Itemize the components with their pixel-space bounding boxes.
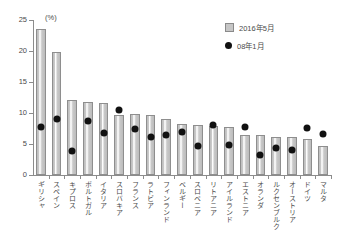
data-point-marker: [37, 123, 44, 130]
x-axis-tick-mark: [64, 175, 65, 179]
bar: [52, 52, 62, 175]
data-point-marker: [84, 118, 91, 125]
y-axis-tick-label: 20: [11, 46, 27, 55]
bar-slot: [177, 20, 187, 175]
x-axis-tick-label: スペイン: [53, 181, 61, 209]
data-point-marker: [273, 144, 280, 151]
x-axis-tick-mark: [190, 175, 191, 179]
x-axis-line: [33, 175, 331, 176]
bar-slot: [161, 20, 171, 175]
bar: [287, 137, 297, 175]
data-point-marker: [226, 141, 233, 148]
y-axis-tick-label: 10: [11, 108, 27, 117]
x-axis-tick-label: ベルギー: [178, 181, 186, 209]
bar-slot: [271, 20, 281, 175]
x-axis-tick-mark: [221, 175, 222, 179]
data-point-marker: [163, 131, 170, 138]
data-point-marker: [304, 124, 311, 131]
x-axis-tick-mark: [253, 175, 254, 179]
x-axis-tick-label: ポルトガル: [84, 181, 92, 216]
y-axis-tick-label: 15: [11, 77, 27, 86]
bar-slot: [146, 20, 156, 175]
x-axis-labels: ギリシャスペインキプロスポルトガルイタリアスロバキアフランスラトビアフィンランド…: [33, 181, 331, 239]
x-axis-tick-mark: [80, 175, 81, 179]
bar: [114, 115, 124, 175]
x-axis-tick-mark: [331, 175, 332, 179]
bar-chart: (%) 2016年5月 08年1月 0510152025 ギリシャスペインキプロ…: [0, 0, 343, 241]
bar-slot: [52, 20, 62, 175]
bar-series-group: [33, 20, 331, 175]
x-axis-tick-label: フィンランド: [163, 181, 171, 223]
x-axis-tick-label: ドイツ: [304, 181, 312, 202]
bar: [209, 126, 219, 175]
x-axis-tick-mark: [284, 175, 285, 179]
data-point-marker: [116, 106, 123, 113]
bar-slot: [209, 20, 219, 175]
data-point-marker: [131, 126, 138, 133]
data-point-marker: [210, 122, 217, 129]
bar-slot: [256, 20, 266, 175]
bar-slot: [67, 20, 77, 175]
x-axis-tick-mark: [268, 175, 269, 179]
bar: [271, 137, 281, 175]
data-point-marker: [147, 133, 154, 140]
bar: [161, 119, 171, 175]
x-axis-tick-label: アイルランド: [225, 181, 233, 223]
x-axis-tick-mark: [300, 175, 301, 179]
bar: [99, 103, 109, 175]
data-point-marker: [53, 116, 60, 123]
x-axis-tick-label: スロバキア: [115, 181, 123, 216]
bar-slot: [114, 20, 124, 175]
data-point-marker: [194, 143, 201, 150]
bar: [193, 125, 203, 175]
bar-slot: [193, 20, 203, 175]
y-axis-tick-label: 25: [11, 15, 27, 24]
x-axis-tick-mark: [111, 175, 112, 179]
x-axis-tick-mark: [315, 175, 316, 179]
bar-slot: [130, 20, 140, 175]
bar: [83, 102, 93, 175]
x-axis-tick-label: オランダ: [257, 181, 265, 209]
bar-slot: [287, 20, 297, 175]
x-axis-tick-label: フランス: [131, 181, 139, 209]
bar-slot: [224, 20, 234, 175]
data-point-marker: [320, 131, 327, 138]
x-axis-tick-label: スロベニア: [194, 181, 202, 216]
y-axis-tick-label: 0: [11, 170, 27, 179]
bar-slot: [99, 20, 109, 175]
bar: [130, 114, 140, 175]
bar-slot: [318, 20, 328, 175]
x-axis-tick-mark: [96, 175, 97, 179]
bar: [318, 146, 328, 175]
bar: [240, 135, 250, 175]
y-axis-tick-label: 5: [11, 139, 27, 148]
bar: [224, 127, 234, 175]
x-axis-tick-label: ギリシャ: [37, 181, 45, 209]
data-point-marker: [257, 151, 264, 158]
bar-slot: [240, 20, 250, 175]
x-axis-tick-label: リトアニア: [210, 181, 218, 216]
bar-slot: [36, 20, 46, 175]
x-axis-tick-mark: [206, 175, 207, 179]
x-axis-tick-label: イタリア: [100, 181, 108, 209]
bar: [303, 139, 313, 175]
data-point-marker: [241, 124, 248, 131]
bar: [36, 29, 46, 175]
bar-slot: [83, 20, 93, 175]
bar: [67, 100, 77, 175]
x-axis-tick-mark: [158, 175, 159, 179]
x-axis-tick-label: ラトビア: [147, 181, 155, 209]
x-axis-tick-label: エストニア: [241, 181, 249, 216]
x-axis-tick-mark: [143, 175, 144, 179]
data-point-marker: [178, 128, 185, 135]
x-axis-tick-mark: [49, 175, 50, 179]
data-point-marker: [288, 147, 295, 154]
data-point-marker: [100, 130, 107, 137]
x-axis-tick-mark: [127, 175, 128, 179]
data-point-marker: [69, 147, 76, 154]
bar: [146, 115, 156, 175]
x-axis-tick-mark: [174, 175, 175, 179]
x-axis-tick-label: ルクセンブルク: [272, 181, 280, 230]
x-axis-tick-label: マルタ: [319, 181, 327, 202]
x-axis-tick-mark: [237, 175, 238, 179]
